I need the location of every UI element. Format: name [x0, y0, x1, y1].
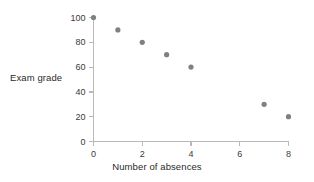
- data-point: [286, 114, 291, 119]
- scatter-chart: 02040608010002468 Exam grade Number of a…: [0, 0, 314, 182]
- data-point: [140, 40, 145, 45]
- x-tick-label: 0: [91, 149, 96, 159]
- y-axis-label: Exam grade: [10, 72, 62, 83]
- data-point: [188, 65, 193, 70]
- data-point: [91, 15, 96, 20]
- y-tick-label: 40: [0, 87, 86, 97]
- y-tick-label: 20: [0, 112, 86, 122]
- y-tick-label: 100: [0, 13, 86, 23]
- x-axis-label: Number of absences: [112, 161, 201, 172]
- x-tick-label: 6: [237, 149, 242, 159]
- data-point: [164, 52, 169, 57]
- y-tick-label: 80: [0, 37, 86, 47]
- x-tick-label: 4: [188, 149, 193, 159]
- x-tick-label: 2: [140, 149, 145, 159]
- data-points: [91, 15, 291, 119]
- axes: [94, 15, 289, 142]
- x-tick-label: 8: [286, 149, 291, 159]
- tick-marks: [89, 18, 289, 147]
- data-point: [115, 27, 120, 32]
- y-tick-label: 0: [0, 137, 86, 147]
- y-tick-label: 60: [0, 62, 86, 72]
- data-point: [262, 102, 267, 107]
